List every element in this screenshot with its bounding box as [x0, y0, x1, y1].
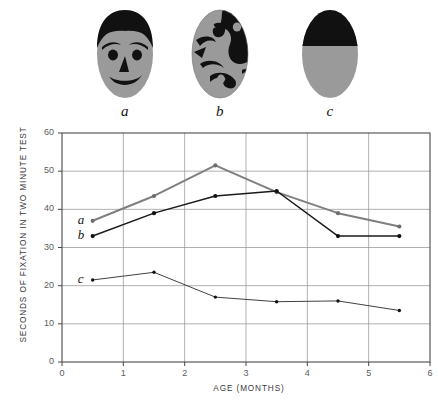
scrambled-face-icon: [180, 6, 260, 102]
half-black-oval-icon: [290, 6, 370, 102]
x-tick-label: 5: [359, 368, 379, 378]
fixation-line-chart: SECONDS OF FIXATION IN TWO MINUTE TEST A…: [0, 122, 438, 407]
y-tick-label: 0: [28, 356, 54, 366]
plot-area: [0, 122, 438, 407]
figure-root: a: [0, 0, 438, 407]
y-tick-label: 20: [28, 280, 54, 290]
stimulus-c: c: [282, 6, 378, 122]
x-tick-label: 3: [236, 368, 256, 378]
axis-ticks: [58, 133, 430, 366]
y-tick-label: 60: [28, 127, 54, 137]
y-tick-label: 30: [28, 242, 54, 252]
gridlines: [62, 133, 430, 362]
y-tick-label: 40: [28, 203, 54, 213]
series-label-a: a: [78, 212, 85, 228]
y-tick-label: 50: [28, 165, 54, 175]
stimulus-b-label: b: [172, 103, 268, 120]
stimulus-b: b: [172, 6, 268, 122]
y-axis-title: SECONDS OF FIXATION IN TWO MINUTE TEST: [19, 120, 28, 350]
y-tick-label: 10: [28, 318, 54, 328]
stimulus-c-label: c: [282, 103, 378, 120]
x-tick-label: 4: [297, 368, 317, 378]
series-label-c: c: [78, 271, 84, 287]
stimuli-row: a: [0, 0, 438, 122]
stimulus-a-label: a: [77, 103, 173, 120]
x-axis-title: AGE (MONTHS): [60, 384, 438, 393]
x-tick-label: 1: [113, 368, 133, 378]
x-tick-label: 0: [52, 368, 72, 378]
schematic-face-icon: [85, 6, 165, 102]
stimulus-a: a: [77, 6, 173, 122]
x-tick-label: 2: [175, 368, 195, 378]
x-tick-label: 6: [420, 368, 438, 378]
series-label-b: b: [78, 227, 85, 243]
